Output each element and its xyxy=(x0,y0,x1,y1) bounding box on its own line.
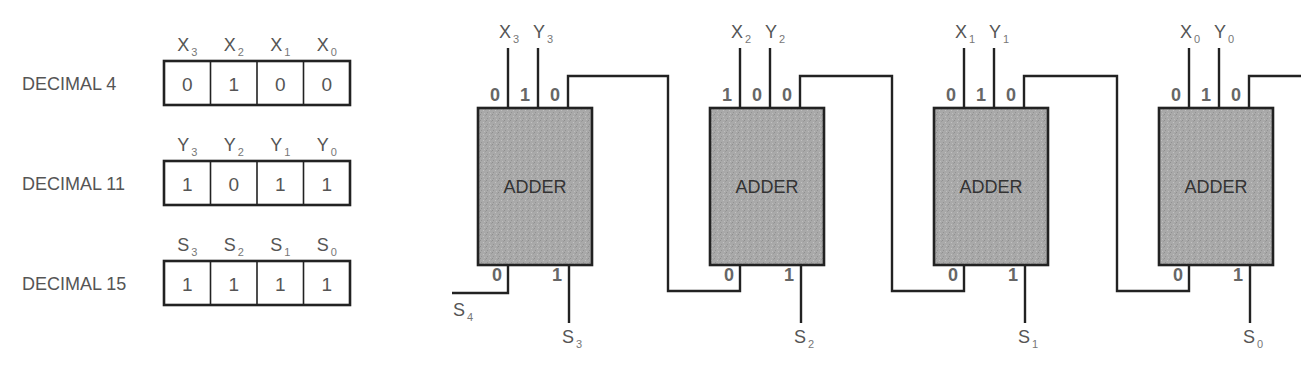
bit-header-y2: Y2 xyxy=(224,135,244,158)
bit-cell-value: 1 xyxy=(182,174,193,195)
input-bit-value: 0 xyxy=(946,85,956,105)
sum-out-bit: 1 xyxy=(784,265,794,285)
carry-out-bit: 0 xyxy=(724,265,734,285)
register-s: DECIMAL 151S31S21S11S0 xyxy=(22,235,350,305)
full-adder-1: ADDERX1Y101001S1 xyxy=(934,22,1189,350)
carry-out-bit: 0 xyxy=(948,265,958,285)
bit-cell-value: 1 xyxy=(321,174,332,195)
binary-registers: DECIMAL 40X31X20X10X0DECIMAL 111Y30Y21Y1… xyxy=(22,35,350,305)
bit-cell-value: 0 xyxy=(228,174,239,195)
x-input-label: X1 xyxy=(955,22,975,45)
adder-chain: ADDERX3Y301001S3ADDERX2Y210001S2ADDERX1Y… xyxy=(452,22,1301,350)
register-x: DECIMAL 40X31X20X10X0 xyxy=(22,35,350,105)
sum-out-bit: 1 xyxy=(552,265,562,285)
bit-cell-value: 0 xyxy=(182,74,193,95)
bit-cell-value: 1 xyxy=(182,274,193,295)
input-bit-value: 0 xyxy=(782,85,792,105)
final-carry-label: S4 xyxy=(453,300,473,323)
sum-output-label: S3 xyxy=(562,327,582,350)
input-bit-value: 0 xyxy=(752,85,762,105)
bit-header-x2: X2 xyxy=(224,35,244,58)
input-bit-value: 0 xyxy=(490,85,500,105)
bit-header-x0: X0 xyxy=(317,35,337,58)
input-bit-value: 1 xyxy=(976,85,986,105)
register-label: DECIMAL 15 xyxy=(22,274,126,294)
bit-cell-value: 1 xyxy=(321,274,332,295)
input-bit-value: 0 xyxy=(550,85,560,105)
adder-label: ADDER xyxy=(1184,177,1247,197)
y-input-label: Y0 xyxy=(1214,22,1234,45)
bit-header-y1: Y1 xyxy=(270,135,290,158)
input-bit-value: 1 xyxy=(520,85,530,105)
bit-header-x3: X3 xyxy=(177,35,197,58)
input-bit-value: 0 xyxy=(1171,85,1181,105)
y-input-label: Y2 xyxy=(765,22,785,45)
bit-cell-value: 1 xyxy=(275,174,286,195)
full-adder-3: ADDERX3Y301001S3 xyxy=(478,22,740,350)
sum-output-label: S2 xyxy=(794,327,814,350)
full-adder-2: ADDERX2Y210001S2 xyxy=(710,22,964,350)
bit-header-y0: Y0 xyxy=(317,135,337,158)
bit-header-s2: S2 xyxy=(224,235,244,258)
ripple-carry-adder-diagram: DECIMAL 40X31X20X10X0DECIMAL 111Y30Y21Y1… xyxy=(0,0,1301,369)
input-bit-value: 1 xyxy=(722,85,732,105)
bit-header-s3: S3 xyxy=(177,235,197,258)
full-adder-0: ADDERX0Y001001S0 xyxy=(1159,22,1301,350)
adder-label: ADDER xyxy=(735,177,798,197)
x-input-label: X0 xyxy=(1180,22,1200,45)
register-label: DECIMAL 11 xyxy=(22,174,125,194)
sum-out-bit: 1 xyxy=(1008,265,1018,285)
sum-output-label: S0 xyxy=(1243,327,1263,350)
carry-out-bit: 0 xyxy=(1173,265,1183,285)
carry-in-wire xyxy=(1249,76,1301,108)
carry-out-bit: 0 xyxy=(492,265,502,285)
y-input-label: Y3 xyxy=(533,22,553,45)
register-label: DECIMAL 4 xyxy=(22,74,116,94)
adder-label: ADDER xyxy=(503,177,566,197)
register-y: DECIMAL 111Y30Y21Y11Y0 xyxy=(22,135,350,205)
bit-cell-value: 0 xyxy=(321,74,332,95)
sum-output-label: S1 xyxy=(1018,327,1038,350)
bit-header-x1: X1 xyxy=(270,35,290,58)
sum-out-bit: 1 xyxy=(1233,265,1243,285)
bit-header-s0: S0 xyxy=(317,235,337,258)
bit-header-s1: S1 xyxy=(270,235,290,258)
input-bit-value: 1 xyxy=(1201,85,1211,105)
adder-label: ADDER xyxy=(959,177,1022,197)
x-input-label: X3 xyxy=(499,22,519,45)
y-input-label: Y1 xyxy=(989,22,1009,45)
bit-cell-value: 1 xyxy=(228,274,239,295)
input-bit-value: 0 xyxy=(1006,85,1016,105)
bit-cell-value: 0 xyxy=(275,74,286,95)
bit-header-y3: Y3 xyxy=(177,135,197,158)
bit-cell-value: 1 xyxy=(275,274,286,295)
x-input-label: X2 xyxy=(731,22,751,45)
input-bit-value: 0 xyxy=(1231,85,1241,105)
bit-cell-value: 1 xyxy=(228,74,239,95)
